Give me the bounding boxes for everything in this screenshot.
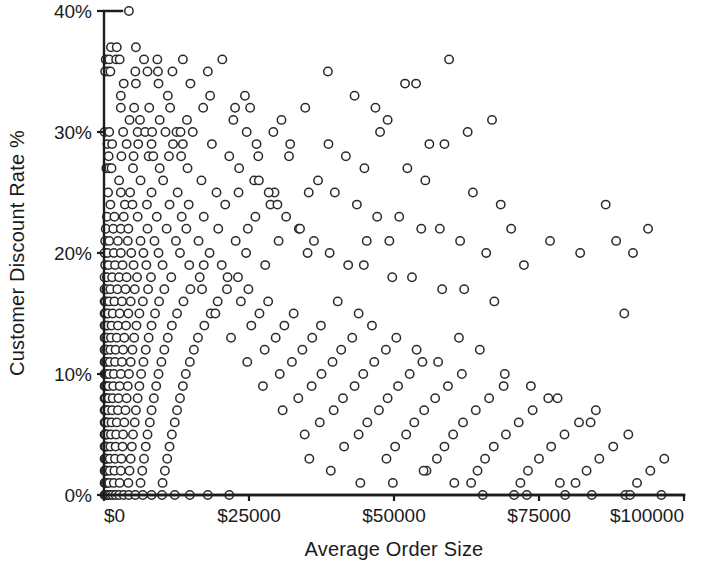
data-point [115,309,123,317]
data-point [592,406,600,414]
data-point [277,116,285,124]
data-point [481,455,489,463]
data-point [363,237,371,245]
data-point [150,394,158,402]
data-point [196,273,204,281]
data-point [391,442,399,450]
data-point [131,67,139,75]
data-point [544,394,552,402]
data-point [194,237,202,245]
data-point [200,213,208,221]
x-axis-title: Average Order Size [305,538,484,560]
data-point [106,200,114,208]
data-point [113,43,121,51]
data-point [450,479,458,487]
data-point [105,128,113,136]
data-point [265,188,273,196]
data-point [490,442,498,450]
data-point [620,309,628,317]
data-point [516,479,524,487]
data-point [200,261,208,269]
data-points-layer [100,7,668,499]
data-point [173,309,181,317]
data-point [135,309,143,317]
data-point [206,92,214,100]
data-point [571,479,579,487]
data-point [403,164,411,172]
data-point [142,261,150,269]
data-point [122,140,130,148]
data-point [373,213,381,221]
data-point [467,479,475,487]
data-point [119,128,127,136]
data-point [186,79,194,87]
data-point [130,104,138,112]
data-point [147,140,155,148]
data-point [129,261,137,269]
data-point [197,176,205,184]
data-point [252,140,260,148]
data-point [119,430,127,438]
data-point [168,430,176,438]
data-point [153,213,161,221]
data-point [412,346,420,354]
data-point [179,140,187,148]
y-tick-label: 0% [65,485,93,506]
data-point [354,430,362,438]
data-point [560,430,568,438]
data-point [242,249,250,257]
data-point [218,261,226,269]
data-point [108,140,116,148]
data-point [412,79,420,87]
data-point [482,249,490,257]
data-point [660,455,668,463]
data-point [164,334,172,342]
data-point [119,346,127,354]
data-point [260,346,268,354]
data-point [237,297,245,305]
y-tick-label: 40% [54,1,92,22]
data-point [389,479,397,487]
data-point [440,140,448,148]
data-point [136,237,144,245]
data-point [148,128,156,136]
data-point [140,455,148,463]
data-point [354,309,362,317]
data-point [342,152,350,160]
data-point [405,370,413,378]
data-point [154,67,162,75]
data-point [150,237,158,245]
data-point [115,479,123,487]
data-point [211,309,219,317]
data-point [143,67,151,75]
data-point [556,479,564,487]
data-point [154,370,162,378]
x-tick-label: $25000 [217,505,280,526]
data-point [179,55,187,63]
data-point [213,297,221,305]
data-point [359,370,367,378]
data-point [314,176,322,184]
data-point [472,406,480,414]
data-point [325,249,333,257]
data-point [106,67,114,75]
data-point [124,225,132,233]
data-point [158,479,166,487]
data-point [149,152,157,160]
data-point [317,321,325,329]
x-tick-label: $50000 [362,505,425,526]
data-point [469,188,477,196]
data-point [147,406,155,414]
data-point [501,370,509,378]
data-point [370,358,378,366]
data-point [118,442,126,450]
data-point [124,479,132,487]
data-point [363,418,371,426]
data-point [535,455,543,463]
data-point [198,285,206,293]
data-point [122,273,130,281]
data-point [231,104,239,112]
data-point [419,467,427,475]
data-point [133,394,141,402]
x-tick-label: $75000 [507,505,570,526]
